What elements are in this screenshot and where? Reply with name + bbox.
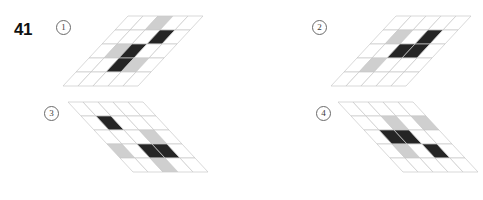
- option-2-marker[interactable]: 2: [312, 20, 327, 35]
- grid-1: [74, 14, 218, 88]
- grid-3: [66, 100, 210, 174]
- question-number: 41: [14, 20, 32, 40]
- option-3-grid: [66, 100, 210, 174]
- grid-4: [336, 100, 480, 174]
- grid-2: [342, 14, 483, 88]
- option-4-marker[interactable]: 4: [316, 106, 331, 121]
- option-1-marker[interactable]: 1: [56, 20, 71, 35]
- option-1-grid: [74, 14, 218, 88]
- option-4-grid: [336, 100, 480, 174]
- option-2-grid: [342, 14, 483, 88]
- option-3-marker[interactable]: 3: [44, 106, 59, 121]
